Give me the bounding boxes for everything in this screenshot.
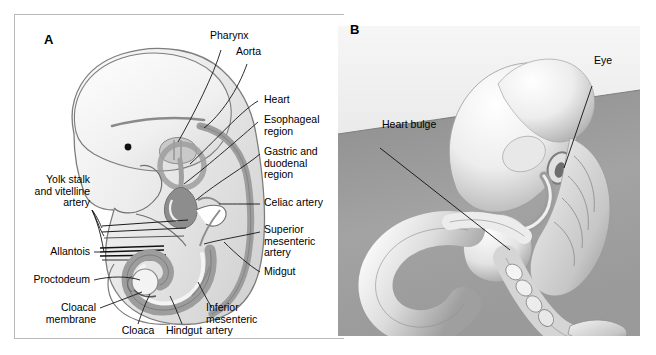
panel-b-letter: B bbox=[350, 22, 359, 37]
label-cloaca: Cloaca bbox=[112, 325, 164, 337]
label-allantois: Allantois bbox=[14, 246, 90, 258]
label-heart: Heart bbox=[264, 94, 290, 106]
panel-a: A bbox=[14, 14, 344, 339]
label-proctodeum: Proctodeum bbox=[14, 274, 90, 286]
label-aorta: Aorta bbox=[236, 46, 261, 58]
figure-root: A bbox=[0, 0, 656, 355]
eye-spot bbox=[125, 144, 132, 151]
label-superior-mesenteric-artery: Superior mesenteric artery bbox=[264, 224, 315, 259]
panel-b: B bbox=[344, 14, 641, 339]
label-cloacal-membrane: Cloacal membrane bbox=[14, 302, 96, 325]
embryo-head bbox=[74, 53, 231, 171]
label-celiac-artery: Celiac artery bbox=[264, 197, 323, 209]
label-midgut: Midgut bbox=[264, 266, 296, 278]
label-esophageal-region: Esophageal region bbox=[264, 114, 319, 137]
label-inferior-mesenteric-artery: Inferior mesenteric artery bbox=[206, 302, 257, 337]
label-hindgut: Hindgut bbox=[158, 325, 210, 337]
label-heart-bulge: Heart bulge bbox=[382, 118, 436, 130]
label-eye: Eye bbox=[594, 54, 612, 66]
label-yolk-stalk-vitelline-artery: Yolk stalk and vitelline artery bbox=[14, 174, 90, 209]
label-gastric-duodenal-region: Gastric and duodenal region bbox=[264, 146, 318, 181]
embryo-photograph bbox=[338, 26, 640, 336]
label-pharynx: Pharynx bbox=[210, 30, 249, 42]
